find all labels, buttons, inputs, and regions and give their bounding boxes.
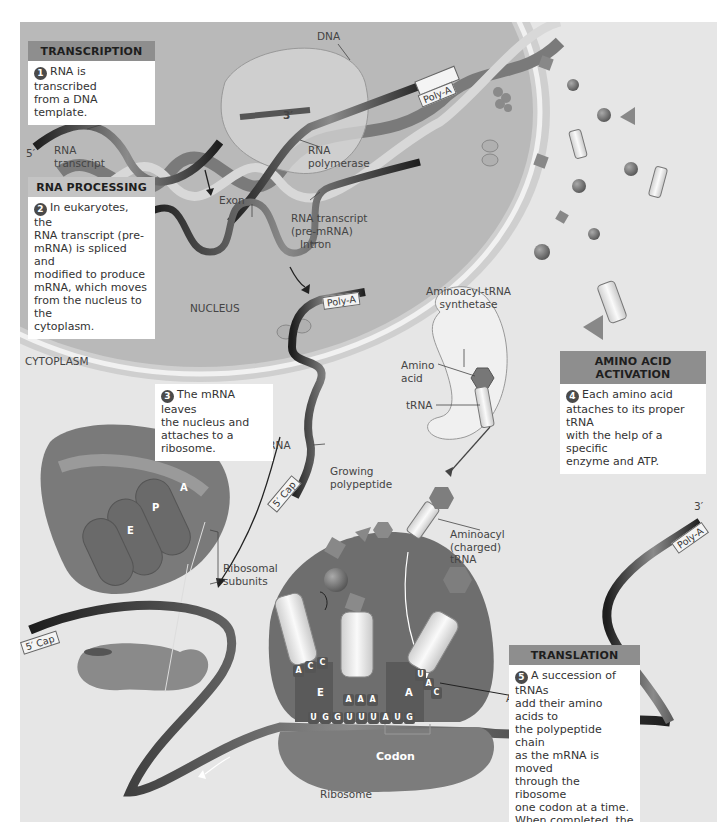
step-text: In eukaryotes, the RNA transcript (pre- … bbox=[34, 201, 147, 333]
step-box-mrna-leaves: 3The mRNA leaves the nucleus and attache… bbox=[155, 384, 273, 461]
site-a-subunit: A bbox=[180, 482, 188, 493]
label-ribosome: Ribosome bbox=[320, 788, 372, 801]
step-number-icon: 4 bbox=[566, 390, 579, 403]
step-box-translation: TRANSLATION 5A succession of tRNAs add t… bbox=[509, 645, 640, 822]
label-aminoacyl-charged-trna: Aminoacyl (charged) tRNA bbox=[450, 528, 505, 566]
label-3prime-bottom: 3′ bbox=[694, 500, 703, 513]
mrna-base-1: U bbox=[308, 712, 319, 724]
step-box-amino-acid-activation: AMINO ACID ACTIVATION 4Each amino acid a… bbox=[560, 351, 706, 474]
label-intron: Intron bbox=[300, 238, 331, 251]
label-exon: Exon bbox=[219, 194, 245, 207]
step-number-icon: 2 bbox=[34, 203, 47, 216]
anticodon-a-3: C bbox=[431, 687, 442, 699]
site-e-ribosome: E bbox=[317, 687, 324, 698]
mrna-base-2: G bbox=[320, 712, 331, 724]
label-5prime-top: 5′ bbox=[26, 147, 35, 160]
site-p-subunit: P bbox=[152, 502, 159, 513]
site-a-ribosome: A bbox=[405, 687, 413, 698]
label-pre-mrna: RNA transcript (pre-mRNA) bbox=[291, 212, 367, 237]
step-box-transcription: TRANSCRIPTION 1RNA is transcribed from a… bbox=[28, 41, 155, 125]
anticodon-e-2: C bbox=[305, 661, 316, 673]
mrna-base-6: U bbox=[368, 712, 379, 724]
step-body: 5A succession of tRNAs add their amino a… bbox=[509, 665, 640, 822]
anticodon-e-3: C bbox=[317, 657, 328, 669]
label-ribosomal-subunits: Ribosomal subunits bbox=[223, 562, 278, 587]
step-text: The mRNA leaves the nucleus and attaches… bbox=[161, 388, 249, 455]
mrna-base-4: U bbox=[344, 712, 355, 724]
step-header: RNA PROCESSING bbox=[28, 177, 155, 197]
label-trna: tRNA bbox=[406, 399, 432, 412]
step-number-icon: 5 bbox=[515, 671, 528, 684]
label-growing-polypeptide: Growing polypeptide bbox=[330, 465, 392, 490]
mrna-base-8: U bbox=[392, 712, 403, 724]
label-rna-polymerase: RNA polymerase bbox=[308, 144, 370, 169]
diagram-panel: DNA 3′ 5′ RNA transcript RNA polymerase … bbox=[20, 22, 717, 822]
mrna-base-3: G bbox=[332, 712, 343, 724]
mrna-base-5: U bbox=[356, 712, 367, 724]
step-text: A succession of tRNAs add their amino ac… bbox=[515, 669, 634, 822]
step-body: 3The mRNA leaves the nucleus and attache… bbox=[155, 384, 273, 461]
label-amino-acid: Amino acid bbox=[401, 359, 434, 384]
site-e-subunit: E bbox=[127, 525, 134, 536]
label-rna-transcript: RNA transcript bbox=[54, 144, 105, 169]
step-header: AMINO ACID ACTIVATION bbox=[560, 351, 706, 384]
label-codon: Codon bbox=[376, 751, 415, 764]
anticodon-e-1: A bbox=[293, 665, 304, 677]
step-body: 1RNA is transcribed from a DNA template. bbox=[28, 61, 155, 125]
anticodon-p-2: A bbox=[355, 694, 366, 706]
step-number-icon: 1 bbox=[34, 67, 47, 80]
step-header: TRANSLATION bbox=[509, 645, 640, 665]
step-text: Each amino acid attaches to its proper t… bbox=[566, 388, 685, 468]
mrna-base-7: A bbox=[380, 712, 391, 724]
label-dna: DNA bbox=[317, 30, 340, 43]
label-cytoplasm: CYTOPLASM bbox=[25, 355, 89, 368]
step-body: 4Each amino acid attaches to its proper … bbox=[560, 384, 706, 474]
anticodon-p-3: A bbox=[367, 694, 378, 706]
label-aminoacyl-trna-synthetase: Aminoacyl-tRNA synthetase bbox=[426, 285, 511, 310]
step-box-rna-processing: RNA PROCESSING 2In eukaryotes, the RNA t… bbox=[28, 177, 155, 339]
mrna-base-9: G bbox=[404, 712, 415, 724]
step-header: TRANSCRIPTION bbox=[28, 41, 155, 61]
step-number-icon: 3 bbox=[161, 390, 174, 403]
label-3prime-top: 3′ bbox=[283, 109, 293, 122]
anticodon-p-1: A bbox=[343, 694, 354, 706]
step-body: 2In eukaryotes, the RNA transcript (pre-… bbox=[28, 197, 155, 339]
label-nucleus: NUCLEUS bbox=[190, 302, 240, 315]
free-amino-acids bbox=[533, 55, 667, 340]
